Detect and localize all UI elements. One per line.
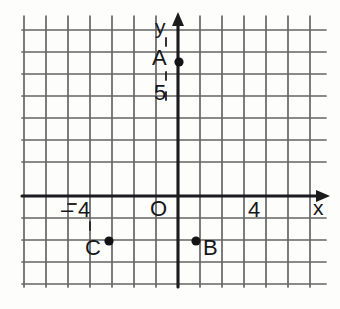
y-axis-label: y <box>155 16 166 37</box>
x-tick-label-4: 4 <box>248 199 260 221</box>
point-b-dot[interactable] <box>191 236 200 245</box>
point-a-label: A <box>152 47 167 69</box>
point-b-label: B <box>203 237 218 259</box>
origin-label: O <box>150 198 167 220</box>
y-axis-arrow <box>172 12 184 26</box>
point-a-dot[interactable] <box>174 57 183 66</box>
x-axis-label: x <box>313 197 324 218</box>
y-tick-label-5: 5 <box>154 82 166 104</box>
x-tick-label-neg4: 4 <box>78 199 90 221</box>
graph-figure: y x A B C 5 – 4 4 O <box>0 0 340 309</box>
grid-lines <box>22 16 326 287</box>
point-c-dot[interactable] <box>104 236 113 245</box>
negative-sign-icon: – <box>61 199 73 221</box>
coordinate-grid-svg <box>0 0 340 309</box>
point-c-label: C <box>85 237 101 259</box>
